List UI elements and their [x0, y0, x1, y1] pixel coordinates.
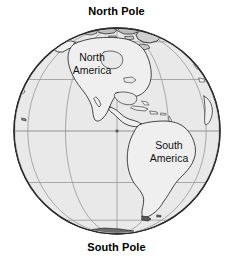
north-pole-label: North Pole: [0, 5, 233, 17]
south-america-label-line1: South: [138, 139, 200, 152]
globe-figure: North Pole: [0, 0, 233, 261]
south-america-label: South America: [138, 139, 200, 164]
north-america-label: North America: [62, 51, 122, 76]
globe-center-dot: [116, 130, 119, 133]
north-america-label-line1: North: [62, 51, 122, 64]
south-america-label-line2: America: [138, 152, 200, 165]
falkland-islands: [157, 215, 161, 217]
south-pole-label: South Pole: [0, 241, 233, 253]
north-america-label-line2: America: [62, 64, 122, 77]
globe-graphic: [0, 0, 233, 261]
puerto-rico-island: [161, 113, 166, 115]
